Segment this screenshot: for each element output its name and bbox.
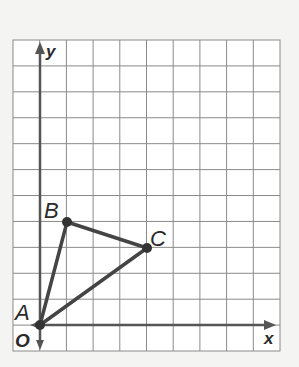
x-axis-label: x [263, 329, 275, 348]
point-a [35, 320, 45, 330]
y-axis-label: y [45, 42, 57, 61]
point-c-label: C [150, 226, 166, 251]
point-b-label: B [44, 198, 59, 223]
coordinate-plane: y x O A B C [0, 0, 299, 367]
point-a-label: A [13, 300, 30, 325]
point-b [62, 217, 72, 227]
origin-label: O [15, 330, 30, 351]
